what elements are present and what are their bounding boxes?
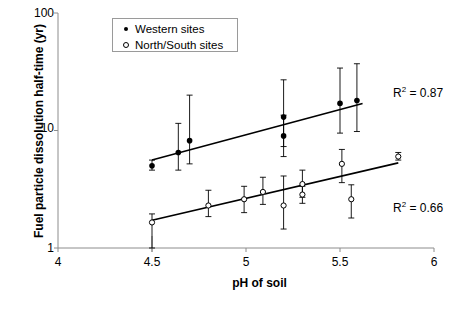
data-point-open (281, 203, 286, 208)
fit-line (152, 103, 363, 160)
r-squared-north-south-value: = 0.66 (406, 201, 443, 215)
error-bar (337, 68, 343, 133)
data-point-filled (176, 150, 182, 156)
r-squared-north-south-prefix: R (393, 201, 402, 215)
data-point-open (149, 220, 154, 225)
data-point-open (339, 161, 344, 166)
r-squared-western-annotation: R2 = 0.87 (393, 85, 443, 100)
x-tick-label-6: 6 (414, 255, 454, 269)
series-western (149, 64, 363, 170)
r-squared-western-prefix: R (393, 86, 402, 100)
legend-item-north-south: North/South sites (120, 37, 237, 53)
x-tick-label-4: 4 (38, 255, 78, 269)
error-bar (187, 95, 193, 164)
data-point-filled (337, 101, 343, 107)
x-tick-label-4-5: 4.5 (132, 255, 172, 269)
y-tick-label-100: 100 (20, 6, 54, 20)
y-tick-label-10: 10 (20, 121, 54, 135)
open-circle-icon (120, 42, 132, 48)
legend-label-north-south: North/South sites (135, 39, 223, 51)
data-point-filled (187, 138, 193, 144)
legend-item-western: Western sites (120, 21, 237, 37)
x-axis-title-text: pH of soil (232, 276, 287, 290)
x-axis-title: pH of soil (0, 276, 471, 290)
data-point-filled (149, 163, 155, 169)
data-point-open (349, 197, 354, 202)
r-squared-north-south-annotation: R2 = 0.66 (393, 200, 443, 215)
data-point-open (242, 197, 247, 202)
fit-line (152, 163, 398, 220)
chart-figure: Fuel particle dissolution half-time (yr)… (0, 0, 471, 310)
error-bar (354, 64, 360, 132)
data-point-filled (281, 114, 287, 120)
legend-label-western: Western sites (135, 23, 204, 35)
r-squared-western-value: = 0.87 (406, 86, 443, 100)
data-point-open (300, 192, 305, 197)
filled-circle-icon (120, 27, 132, 31)
data-point-open (206, 203, 211, 208)
y-tick-label-1: 1 (20, 241, 54, 255)
x-tick-label-5-5: 5.5 (320, 255, 360, 269)
error-bar (175, 123, 181, 170)
data-point-open (260, 189, 265, 194)
legend: Western sites North/South sites (112, 18, 238, 52)
data-point-open (396, 154, 401, 159)
data-point-open (300, 181, 305, 186)
data-point-filled (354, 98, 360, 104)
x-tick-label-5: 5 (226, 255, 266, 269)
data-point-filled (281, 133, 287, 139)
